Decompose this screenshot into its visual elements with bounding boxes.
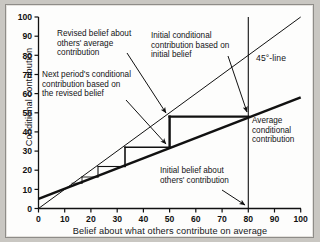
annotation-initial-conditional-line2: contribution based on [151,41,244,51]
x-tick-20: 20 [86,214,96,224]
annotation-initial-belief: Initial belief about others' contributio… [160,166,252,185]
annotation-average-conditional: Average conditional contribution [252,116,308,145]
annotation-initial-belief-line1: Initial belief about [160,166,252,176]
annotation-average-conditional-line2: conditional [252,126,308,136]
x-tick-50: 50 [165,214,175,224]
figure-background: 100 90 80 70 60 50 40 30 20 10 0 [0,0,320,242]
x-axis-tick-labels: 0 10 20 30 40 50 60 70 80 90 100 [36,214,308,224]
annotation-initial-conditional-line3: initial belief [151,50,244,60]
annotation-next-period: Next period's conditional contribution b… [42,70,142,99]
x-tick-30: 30 [112,214,122,224]
annotation-revised-belief: Revised belief about others' average con… [57,29,149,58]
x-tick-100: 100 [294,214,309,224]
x-tick-80: 80 [244,214,254,224]
annotation-revised-belief-line3: contribution [57,48,149,58]
annotation-revised-belief-line2: others' average [57,39,149,49]
annotation-initial-belief-line2: others' contribution [160,176,252,186]
annotation-45-degree-line: 45°-line [256,53,286,63]
annotation-average-conditional-line3: contribution [252,135,308,145]
x-tick-10: 10 [60,214,70,224]
y-tick-10: 10 [22,185,32,195]
y-tick-100: 100 [18,12,33,22]
x-axis-title: Belief about what others contribute on a… [38,226,302,236]
arrow-initial-conditional [228,56,247,112]
arrow-next-period [126,100,166,144]
arrow-initial-belief [222,190,245,205]
annotation-next-period-line2: contribution based on [42,80,142,90]
annotation-average-conditional-line1: Average [252,116,308,126]
x-tick-0: 0 [36,214,41,224]
y-axis-title: Conditional contribution [24,22,34,172]
x-tick-70: 70 [217,214,227,224]
annotation-next-period-line1: Next period's conditional [42,70,142,80]
x-tick-40: 40 [139,214,149,224]
annotation-next-period-line3: the revised belief [42,89,142,99]
annotation-initial-conditional-line1: Initial conditional [151,31,244,41]
x-tick-60: 60 [191,214,201,224]
annotation-revised-belief-line1: Revised belief about [57,29,149,39]
annotation-initial-conditional: Initial conditional contribution based o… [151,31,244,60]
x-tick-90: 90 [270,214,280,224]
y-tick-0: 0 [27,204,32,214]
